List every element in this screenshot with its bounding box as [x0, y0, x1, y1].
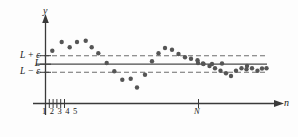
x-tick-label-N: N — [194, 106, 200, 116]
data-point — [112, 69, 116, 73]
data-point — [96, 51, 100, 55]
data-point — [183, 55, 187, 59]
data-point — [264, 66, 268, 70]
data-point — [260, 66, 264, 70]
data-point — [75, 40, 79, 44]
data-point — [170, 48, 174, 52]
data-point — [239, 66, 243, 70]
data-point — [90, 45, 94, 49]
data-point — [120, 78, 124, 82]
data-point — [105, 61, 109, 65]
data-point — [245, 64, 249, 68]
data-point — [220, 61, 224, 65]
level-label-lower: L − ε — [2, 66, 40, 76]
x-tick-labels-start: 1 2 3 4 5 — [42, 106, 78, 116]
data-point — [150, 59, 154, 63]
data-point — [213, 66, 217, 70]
data-point — [163, 46, 167, 50]
x-axis-label: n — [284, 97, 289, 108]
y-axis-label: y — [43, 5, 47, 16]
data-point — [218, 69, 222, 73]
data-point — [143, 73, 147, 77]
data-point — [68, 45, 72, 49]
limit-sequence-figure: y n L + ε L L − ε 1 2 3 4 5 N — [0, 0, 298, 137]
x-axis-arrowhead — [274, 100, 284, 107]
data-point — [156, 51, 160, 55]
data-point — [255, 69, 259, 73]
data-point — [210, 62, 214, 66]
data-point — [135, 85, 139, 89]
data-point — [60, 40, 64, 44]
data-point — [129, 77, 133, 81]
data-point — [189, 57, 193, 61]
data-point — [50, 49, 54, 53]
data-point — [224, 71, 228, 75]
data-point — [229, 74, 233, 78]
data-point — [196, 61, 200, 65]
data-point — [176, 52, 180, 56]
plot-canvas — [0, 0, 298, 137]
data-point — [84, 39, 88, 43]
data-point — [234, 69, 238, 73]
data-point — [250, 66, 254, 70]
data-point — [201, 61, 205, 65]
